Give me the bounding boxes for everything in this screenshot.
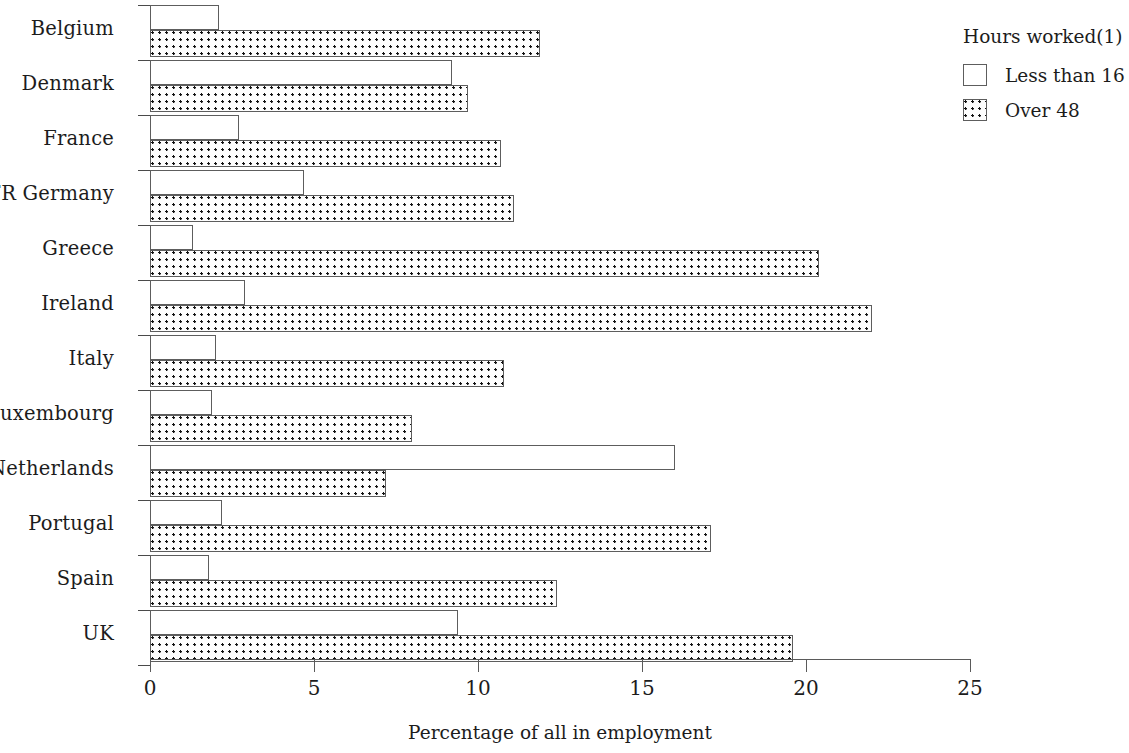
category-tick — [138, 5, 150, 6]
category-label: Ireland — [0, 292, 114, 315]
bar-over-48[interactable] — [150, 250, 819, 277]
x-axis-line — [150, 659, 970, 660]
legend: Hours worked(1) Less than 16 Over 48 — [963, 26, 1129, 133]
x-axis-tick-label: 5 — [284, 676, 344, 700]
category-tick — [138, 445, 150, 446]
bar-over-48[interactable] — [150, 580, 557, 607]
x-axis-tick — [806, 659, 807, 672]
bar-less-than-16[interactable] — [150, 610, 458, 635]
open-square-icon — [963, 64, 987, 86]
category-label: FR Germany — [0, 182, 114, 205]
bar-less-than-16[interactable] — [150, 500, 222, 525]
category-row: Netherlands — [0, 445, 1129, 500]
x-axis-tick-label: 15 — [612, 676, 672, 700]
bar-over-48[interactable] — [150, 85, 468, 112]
category-tick — [138, 335, 150, 336]
category-row: Ireland — [0, 280, 1129, 335]
bar-less-than-16[interactable] — [150, 115, 239, 140]
category-label: Spain — [0, 567, 114, 590]
category-tick — [138, 665, 150, 666]
category-row: Greece — [0, 225, 1129, 280]
category-tick — [138, 390, 150, 391]
x-axis-tick — [150, 659, 151, 672]
category-label: Belgium — [0, 17, 114, 40]
category-row: Portugal — [0, 500, 1129, 555]
bar-less-than-16[interactable] — [150, 225, 193, 250]
legend-item-label: Over 48 — [1005, 100, 1080, 121]
bar-less-than-16[interactable] — [150, 280, 245, 305]
category-label: France — [0, 127, 114, 150]
category-row: Denmark — [0, 60, 1129, 115]
horizontal-bar-chart: BelgiumDenmarkFranceFR GermanyGreeceIrel… — [0, 0, 1129, 753]
bar-over-48[interactable] — [150, 360, 504, 387]
plot-area: BelgiumDenmarkFranceFR GermanyGreeceIrel… — [0, 0, 1129, 753]
x-axis-tick-label: 20 — [776, 676, 836, 700]
x-axis-tick-label: 25 — [940, 676, 1000, 700]
bar-over-48[interactable] — [150, 635, 793, 662]
bar-over-48[interactable] — [150, 470, 386, 497]
category-label: UK — [0, 622, 114, 645]
category-row: UK — [0, 610, 1129, 665]
category-tick — [138, 225, 150, 226]
bar-over-48[interactable] — [150, 195, 514, 222]
bar-over-48[interactable] — [150, 525, 711, 552]
legend-title: Hours worked(1) — [963, 26, 1129, 47]
category-label: Italy — [0, 347, 114, 370]
category-row: Italy — [0, 335, 1129, 390]
category-tick — [138, 555, 150, 556]
legend-item-over-48[interactable]: Over 48 — [963, 98, 1129, 122]
x-axis-title: Percentage of all in employment — [150, 722, 970, 743]
category-tick — [138, 610, 150, 611]
x-axis-tick — [478, 659, 479, 672]
bar-less-than-16[interactable] — [150, 390, 212, 415]
bar-over-48[interactable] — [150, 140, 501, 167]
category-label: Portugal — [0, 512, 114, 535]
dotted-square-icon — [963, 99, 987, 121]
category-row: Belgium — [0, 5, 1129, 60]
bar-less-than-16[interactable] — [150, 5, 219, 30]
category-label: Greece — [0, 237, 114, 260]
category-row: Luxembourg — [0, 390, 1129, 445]
bar-less-than-16[interactable] — [150, 555, 209, 580]
category-tick — [138, 115, 150, 116]
category-tick — [138, 170, 150, 171]
bar-less-than-16[interactable] — [150, 335, 216, 360]
bar-over-48[interactable] — [150, 305, 872, 332]
category-row: Spain — [0, 555, 1129, 610]
x-axis-tick — [314, 659, 315, 672]
bar-over-48[interactable] — [150, 30, 540, 57]
legend-item-label: Less than 16 — [1005, 65, 1125, 86]
x-axis-tick — [970, 659, 971, 672]
x-axis-tick-label: 10 — [448, 676, 508, 700]
bar-less-than-16[interactable] — [150, 445, 675, 470]
category-tick — [138, 60, 150, 61]
category-row: France — [0, 115, 1129, 170]
category-tick — [138, 500, 150, 501]
category-row: FR Germany — [0, 170, 1129, 225]
bar-less-than-16[interactable] — [150, 60, 452, 85]
category-label: Luxembourg — [0, 402, 114, 425]
category-label: Denmark — [0, 72, 114, 95]
legend-item-less-than-16[interactable]: Less than 16 — [963, 63, 1129, 87]
x-axis-tick-label: 0 — [120, 676, 180, 700]
x-axis-tick — [642, 659, 643, 672]
bar-over-48[interactable] — [150, 415, 412, 442]
category-label: Netherlands — [0, 457, 114, 480]
bar-less-than-16[interactable] — [150, 170, 304, 195]
category-tick — [138, 280, 150, 281]
